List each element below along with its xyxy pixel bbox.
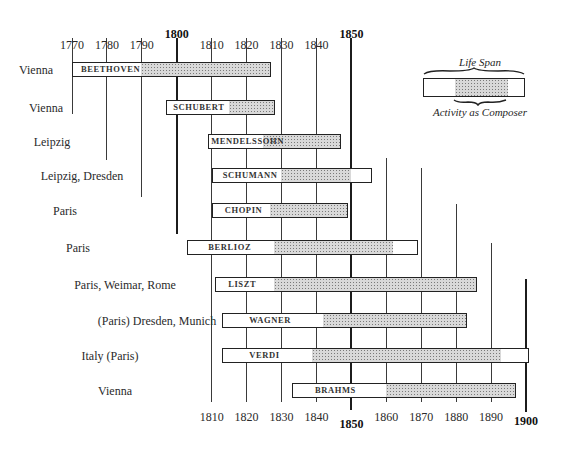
top-tick-label: 1840 [304, 38, 328, 53]
composer-bar-beethoven: BEETHOVEN [72, 62, 271, 77]
composer-name: WAGNER [249, 315, 291, 325]
city-label: Paris [53, 204, 77, 219]
city-label: Vienna [98, 384, 132, 399]
composer-bar-liszt: LISZT [215, 277, 477, 292]
bottom-tick-label: 1830 [270, 410, 294, 425]
top-tick-label: 1780 [95, 38, 119, 53]
bottom-tick-label: 1900 [514, 414, 538, 429]
composer-bar-verdi: VERDI [222, 348, 529, 363]
city-label: Leipzig, Dresden [41, 169, 124, 184]
composer-bar-brahms: BRAHMS [292, 383, 516, 398]
composer-bar-chopin: CHOPIN [212, 203, 348, 218]
bottom-tick-label: 1810 [200, 410, 224, 425]
city-label: Paris, Weimar, Rome [74, 278, 176, 293]
activity-period [229, 101, 274, 114]
city-label: Vienna [29, 101, 63, 116]
city-label: Vienna [19, 63, 53, 78]
gridline-1810 [211, 38, 212, 402]
composer-name: SCHUBERT [173, 102, 224, 112]
activity-period [274, 278, 477, 291]
bottom-tick-label: 1840 [304, 410, 328, 425]
top-tick-label: 1820 [235, 38, 259, 53]
activity-period [141, 63, 270, 76]
gridline-1780 [106, 38, 107, 160]
activity-period [323, 314, 466, 327]
legend-brace-icon [420, 56, 540, 122]
activity-period [281, 169, 351, 182]
bottom-tick-label: 1880 [444, 410, 468, 425]
composer-bar-berlioz: BERLIOZ [187, 240, 417, 255]
composer-bar-schumann: SCHUMANN [212, 168, 373, 183]
top-tick-label: 1810 [200, 38, 224, 53]
composer-name: LISZT [228, 279, 256, 289]
composer-name: CHOPIN [225, 205, 263, 215]
city-label: Italy (Paris) [82, 349, 139, 364]
bottom-tick-label: 1860 [374, 410, 398, 425]
activity-period [386, 384, 515, 397]
composer-name: MENDELSSOHN [211, 136, 284, 146]
top-tick-label: 1800 [165, 27, 189, 42]
composer-bar-schubert: SCHUBERT [166, 100, 274, 115]
top-tick-label: 1850 [339, 27, 363, 42]
composer-timeline-chart: 1770178017901800181018201830184018501810… [0, 0, 570, 456]
composer-name: BERLIOZ [208, 242, 251, 252]
composer-bar-mendelssohn: MENDELSSOHN [208, 134, 341, 149]
composer-name: SCHUMANN [223, 170, 278, 180]
bottom-tick-label: 1820 [235, 410, 259, 425]
legend: Life SpanActivity as Composer [420, 56, 540, 122]
top-tick-label: 1830 [270, 38, 294, 53]
top-tick-label: 1770 [60, 38, 84, 53]
gridline-1890 [491, 243, 492, 402]
activity-period [274, 241, 393, 254]
gridline-1880 [456, 204, 457, 402]
composer-bar-wagner: WAGNER [222, 313, 466, 328]
bottom-tick-label: 1850 [339, 417, 363, 432]
gridline-1900 [525, 279, 527, 412]
city-label: (Paris) Dresden, Munich [98, 314, 216, 329]
composer-name: VERDI [249, 350, 279, 360]
activity-period [312, 349, 501, 362]
activity-period [270, 204, 347, 217]
bottom-tick-label: 1870 [409, 410, 433, 425]
city-label: Leipzig [34, 135, 71, 150]
composer-name: BRAHMS [315, 385, 356, 395]
top-tick-label: 1790 [130, 38, 154, 53]
composer-name: BEETHOVEN [81, 64, 140, 74]
city-label: Paris [66, 241, 90, 256]
bottom-tick-label: 1890 [479, 410, 503, 425]
